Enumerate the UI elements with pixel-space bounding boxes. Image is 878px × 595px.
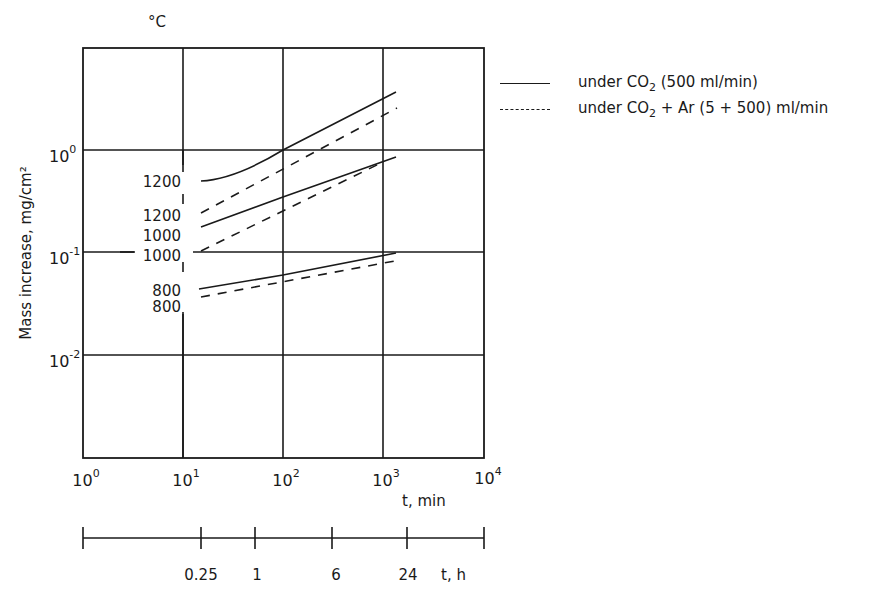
svg-text:6: 6 [331,566,341,584]
svg-text:100: 100 [72,467,99,490]
svg-text:101: 101 [172,467,199,490]
series-lines [199,92,400,297]
series-800-co2 [199,253,396,289]
svg-text:1: 1 [252,566,262,584]
temp-label: 1200 [143,207,181,225]
unit-label: °C [148,13,166,31]
temp-label: 1000 [143,247,181,265]
x-axis-label-min: t, min [402,492,446,510]
svg-text:10-1: 10-1 [49,245,80,268]
legend-label: under CO2 + Ar (5 + 500) ml/min [578,99,828,120]
y-axis-label: Mass increase, mg/cm² [17,166,35,339]
y-tick-labels: 100 10-1 10-2 [49,143,80,371]
series-1200-co2-ar [201,108,397,213]
x-axis-label-h: t, h [441,566,466,584]
svg-text:24: 24 [398,566,417,584]
legend-item-solid: under CO2 (500 ml/min) [500,70,828,96]
solid-line-swatch-icon [500,83,550,84]
series-800-co2-ar [201,260,400,297]
legend-label: under CO2 (500 ml/min) [578,73,758,94]
hour-axis [83,527,484,549]
svg-text:10-2: 10-2 [49,348,80,371]
dashed-line-swatch-icon [500,109,550,110]
temp-label: 1200 [143,173,181,191]
legend: under CO2 (500 ml/min) under CO2 + Ar (5… [500,70,828,122]
legend-item-dashed: under CO2 + Ar (5 + 500) ml/min [500,96,828,122]
series-1000-co2 [201,157,396,227]
temp-label: 1000 [143,227,181,245]
svg-text:0.25: 0.25 [184,566,217,584]
svg-text:100: 100 [49,143,76,166]
svg-text:103: 103 [372,467,399,490]
svg-text:102: 102 [272,467,299,490]
vertical-gridlines [183,48,383,458]
hour-tick-labels: 0.25 1 6 24 [184,566,417,584]
x-tick-labels: 100 101 102 103 104 [72,465,501,490]
temp-label: 800 [152,298,181,316]
svg-text:104: 104 [474,465,501,488]
